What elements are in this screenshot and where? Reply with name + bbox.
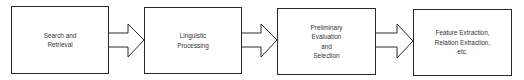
stage-label: Search and Retrieval [44,31,77,50]
stage-label-line: Selection [311,51,343,61]
stage-label-line: Processing [177,41,209,51]
stage-label-line: Feature Extraction, [435,28,490,38]
stage-label: Linguistic Processing [177,31,209,50]
block-arrow-1 [108,24,144,57]
stage-label-line: Retrieval [44,40,77,50]
stage-linguistic-processing: Linguistic Processing [144,7,242,74]
stage-feature-extraction: Feature Extraction, Relation Extraction,… [413,9,512,76]
block-arrow-2 [241,24,277,57]
stage-preliminary-evaluation: Preliminary Evaluation and Selection [277,8,376,75]
stage-label-line: and [311,42,343,52]
block-arrow-3 [375,24,413,58]
stage-label-line: Evaluation [311,32,343,42]
stage-label-line: Linguistic [177,31,209,41]
stage-label-line: Preliminary [311,23,343,33]
stage-label-line: Relation Extraction, [435,38,490,48]
stage-label: Preliminary Evaluation and Selection [311,23,343,61]
stage-search-and-retrieval: Search and Retrieval [11,6,109,74]
stage-label: Feature Extraction, Relation Extraction,… [435,28,490,57]
stage-label-line: etc. [435,47,490,57]
stage-label-line: Search and [44,31,77,41]
